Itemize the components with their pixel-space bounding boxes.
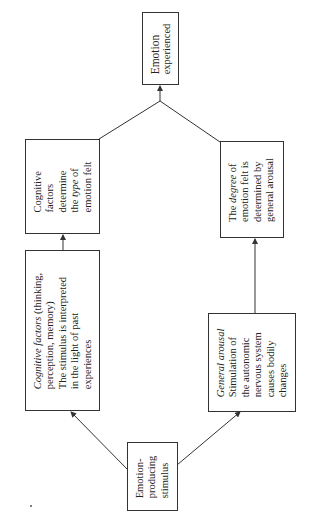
edge-type-to-junction bbox=[99, 101, 160, 139]
node-text: Emotion- producing stimulus bbox=[134, 455, 171, 498]
node-text: General arousal Stimulation of the auton… bbox=[215, 328, 289, 397]
node-text: Cognitive factors (thinking, perception,… bbox=[31, 272, 93, 388]
node-text: Emotion experienced bbox=[148, 23, 173, 74]
node-text: The degree of emotion felt is determined… bbox=[227, 158, 277, 222]
node-type-determined: Cognitive factors determine the type of … bbox=[25, 139, 100, 234]
node-emotion-experienced: Emotion experienced bbox=[142, 12, 179, 85]
node-emotion-producing-stimulus: Emotion- producing stimulus bbox=[127, 442, 178, 511]
node-general-arousal: General arousal Stimulation of the auton… bbox=[208, 313, 296, 412]
edge-stimulus-to-arousal bbox=[177, 412, 240, 465]
node-text: Cognitive factors determine the type of … bbox=[31, 161, 93, 212]
stray-dot bbox=[30, 505, 32, 507]
node-degree-determined: The degree of emotion felt is determined… bbox=[220, 141, 284, 238]
edge-stimulus-to-cognitive bbox=[71, 412, 127, 469]
node-cognitive-factors: Cognitive factors (thinking, perception,… bbox=[25, 250, 100, 411]
edge-degree-to-junction bbox=[160, 101, 220, 142]
